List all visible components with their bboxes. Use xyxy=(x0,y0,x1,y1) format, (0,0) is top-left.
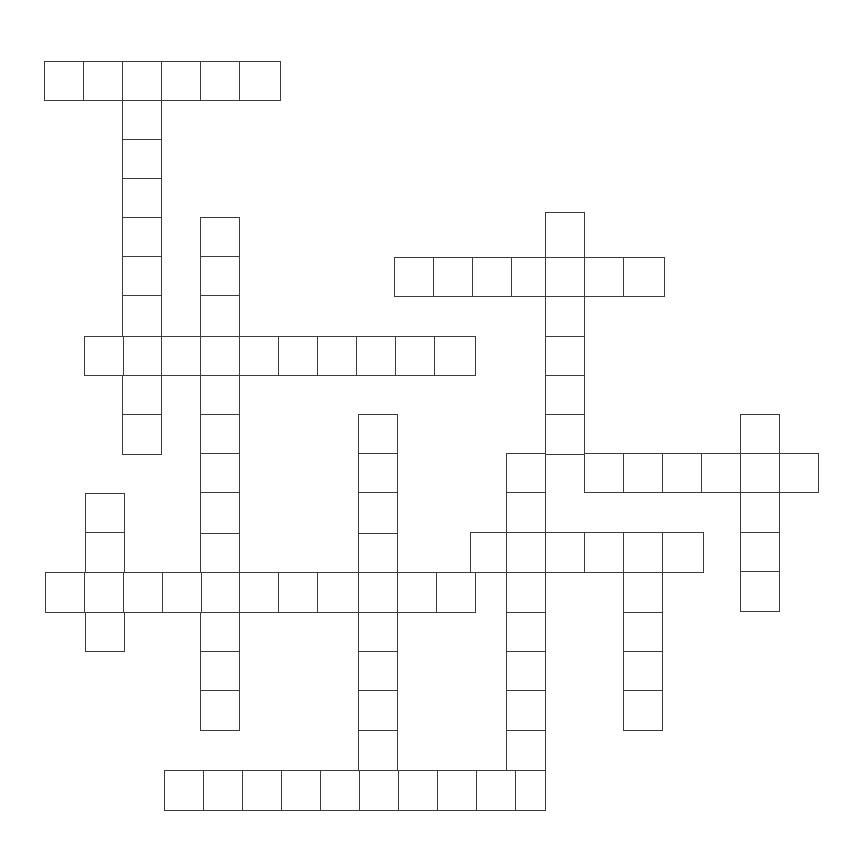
crossword-cell[interactable] xyxy=(358,651,398,691)
crossword-cell[interactable] xyxy=(623,453,663,493)
crossword-cell[interactable] xyxy=(470,532,510,573)
crossword-cell[interactable] xyxy=(85,532,125,573)
crossword-cell[interactable] xyxy=(506,492,546,533)
crossword-cell[interactable] xyxy=(394,257,434,297)
crossword-cell[interactable] xyxy=(515,770,546,811)
crossword-cell[interactable] xyxy=(476,770,516,811)
crossword-cell[interactable] xyxy=(436,572,476,613)
crossword-cell[interactable] xyxy=(359,770,399,811)
crossword-cell[interactable] xyxy=(200,533,240,573)
crossword-cell[interactable] xyxy=(584,532,624,573)
crossword-cell[interactable] xyxy=(623,532,663,573)
crossword-cell[interactable] xyxy=(397,572,437,613)
crossword-cell[interactable] xyxy=(200,336,240,376)
crossword-cell[interactable] xyxy=(506,572,546,613)
crossword-cell[interactable] xyxy=(200,375,240,415)
crossword-cell[interactable] xyxy=(200,256,240,296)
crossword-cell[interactable] xyxy=(84,336,124,376)
crossword-cell[interactable] xyxy=(200,572,240,613)
crossword-cell[interactable] xyxy=(239,572,279,613)
crossword-cell[interactable] xyxy=(623,651,663,691)
crossword-cell[interactable] xyxy=(584,257,624,297)
crossword-cell[interactable] xyxy=(740,492,780,533)
crossword-cell[interactable] xyxy=(122,178,162,218)
crossword-cell[interactable] xyxy=(740,414,780,454)
crossword-cell[interactable] xyxy=(122,217,162,257)
crossword-cell[interactable] xyxy=(662,453,702,493)
crossword-cell[interactable] xyxy=(84,572,124,613)
crossword-cell[interactable] xyxy=(164,770,204,811)
crossword-cell[interactable] xyxy=(122,61,162,101)
crossword-grid[interactable] xyxy=(0,0,855,854)
crossword-cell[interactable] xyxy=(740,571,780,612)
crossword-cell[interactable] xyxy=(545,257,585,297)
crossword-cell[interactable] xyxy=(545,414,585,455)
crossword-cell[interactable] xyxy=(506,690,546,731)
crossword-cell[interactable] xyxy=(740,453,780,493)
crossword-cell[interactable] xyxy=(281,770,321,811)
crossword-cell[interactable] xyxy=(506,532,546,573)
crossword-cell[interactable] xyxy=(395,336,435,376)
crossword-cell[interactable] xyxy=(317,572,359,613)
crossword-cell[interactable] xyxy=(437,770,477,811)
crossword-cell[interactable] xyxy=(506,612,546,652)
crossword-cell[interactable] xyxy=(545,532,585,573)
crossword-cell[interactable] xyxy=(358,730,398,771)
crossword-cell[interactable] xyxy=(200,651,240,691)
crossword-cell[interactable] xyxy=(358,572,398,613)
crossword-cell[interactable] xyxy=(358,690,398,731)
crossword-cell[interactable] xyxy=(701,453,741,493)
crossword-cell[interactable] xyxy=(122,414,162,455)
crossword-cell[interactable] xyxy=(433,257,473,297)
crossword-cell[interactable] xyxy=(545,212,585,258)
crossword-cell[interactable] xyxy=(506,453,546,493)
crossword-cell[interactable] xyxy=(161,336,201,376)
crossword-cell[interactable] xyxy=(278,336,318,376)
crossword-cell[interactable] xyxy=(44,61,84,101)
crossword-cell[interactable] xyxy=(623,690,663,731)
crossword-cell[interactable] xyxy=(122,256,162,296)
crossword-cell[interactable] xyxy=(358,414,398,455)
crossword-cell[interactable] xyxy=(623,572,663,613)
crossword-cell[interactable] xyxy=(200,414,240,454)
crossword-cell[interactable] xyxy=(200,453,240,493)
crossword-cell[interactable] xyxy=(278,572,318,613)
crossword-cell[interactable] xyxy=(161,61,201,101)
crossword-cell[interactable] xyxy=(623,612,663,652)
crossword-cell[interactable] xyxy=(779,453,819,493)
crossword-cell[interactable] xyxy=(545,296,585,337)
crossword-cell[interactable] xyxy=(506,651,546,691)
crossword-cell[interactable] xyxy=(358,533,398,573)
crossword-cell[interactable] xyxy=(200,492,240,534)
crossword-cell[interactable] xyxy=(122,375,162,415)
crossword-cell[interactable] xyxy=(320,770,360,811)
crossword-cell[interactable] xyxy=(398,770,438,811)
crossword-cell[interactable] xyxy=(200,295,240,337)
crossword-cell[interactable] xyxy=(123,572,163,613)
crossword-cell[interactable] xyxy=(83,61,123,101)
crossword-cell[interactable] xyxy=(200,217,240,257)
crossword-cell[interactable] xyxy=(472,257,512,297)
crossword-cell[interactable] xyxy=(358,492,398,534)
crossword-cell[interactable] xyxy=(122,295,162,337)
crossword-cell[interactable] xyxy=(358,453,398,493)
crossword-cell[interactable] xyxy=(85,612,125,652)
crossword-cell[interactable] xyxy=(200,61,240,101)
crossword-cell[interactable] xyxy=(200,690,240,731)
crossword-cell[interactable] xyxy=(239,336,279,376)
crossword-cell[interactable] xyxy=(545,375,585,415)
crossword-cell[interactable] xyxy=(122,336,162,376)
crossword-cell[interactable] xyxy=(584,453,624,493)
crossword-cell[interactable] xyxy=(242,770,282,811)
crossword-cell[interactable] xyxy=(200,612,240,652)
crossword-cell[interactable] xyxy=(358,612,398,652)
crossword-cell[interactable] xyxy=(662,532,704,573)
crossword-cell[interactable] xyxy=(85,493,125,533)
crossword-cell[interactable] xyxy=(45,572,85,613)
crossword-cell[interactable] xyxy=(317,336,357,376)
crossword-cell[interactable] xyxy=(162,572,202,613)
crossword-cell[interactable] xyxy=(545,336,585,376)
crossword-cell[interactable] xyxy=(506,730,546,771)
crossword-cell[interactable] xyxy=(434,336,476,376)
crossword-cell[interactable] xyxy=(203,770,243,811)
